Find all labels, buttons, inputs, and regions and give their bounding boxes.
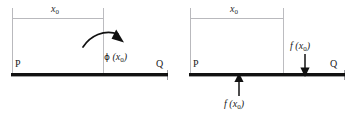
right-panel-force-arrow-up	[234, 73, 243, 96]
right-panel-support-label-p: P	[193, 59, 199, 69]
left-panel-support-label-q: Q	[156, 59, 163, 69]
left-panel-construction-lines	[13, 8, 168, 80]
left-panel-dimension-label: x0	[51, 4, 59, 16]
left-panel-moment-load-label: ϕ (x0)	[104, 52, 127, 64]
right-panel-construction-lines	[191, 8, 345, 80]
left-panel-beam	[11, 73, 168, 76]
right-panel-force-label-down: f (x0)	[290, 41, 310, 53]
left-panel-support-label-p: P	[15, 59, 21, 69]
right-panel-dimension-label: x0	[230, 4, 238, 16]
figure-vector-layer	[0, 0, 357, 120]
right-panel-support-label-q: Q	[330, 59, 337, 69]
right-panel-force-label-up: f (x0)	[224, 99, 244, 111]
figure-canvas: x0 P Q ϕ (x0) x0 P Q f (x0) f (x0)	[0, 0, 357, 120]
right-panel-beam	[189, 73, 345, 76]
